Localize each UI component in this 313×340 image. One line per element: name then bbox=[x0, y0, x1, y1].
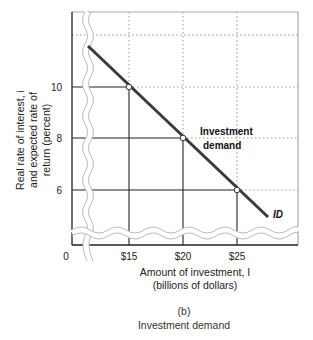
investment-demand-label-line2: demand bbox=[203, 140, 241, 151]
x-tick-20: $20 bbox=[175, 251, 192, 262]
y-tick-8: 8 bbox=[56, 133, 62, 144]
y-tick-6: 6 bbox=[56, 185, 62, 196]
data-point-15-10 bbox=[126, 84, 132, 90]
x-axis-break-icon bbox=[72, 226, 298, 239]
svg-text:return (percent): return (percent) bbox=[40, 104, 52, 176]
y-tick-10: 10 bbox=[51, 82, 63, 93]
x-axis-title-line2: (billions of dollars) bbox=[100, 279, 290, 292]
y-axis-title: Real rate of interest, i and expected ra… bbox=[14, 90, 52, 190]
figure-caption: Investment demand bbox=[0, 319, 313, 331]
x-tick-0: 0 bbox=[63, 251, 69, 262]
x-axis-title: Amount of investment, I (billions of dol… bbox=[100, 266, 290, 292]
svg-text:Real rate of interest, i: Real rate of interest, i bbox=[14, 90, 26, 190]
id-curve-label: ID bbox=[273, 209, 283, 220]
x-axis-title-line1: Amount of investment, I bbox=[100, 266, 290, 279]
dotted-gridlines bbox=[72, 12, 298, 190]
data-point-25-6 bbox=[234, 187, 240, 193]
x-tick-15: $15 bbox=[121, 251, 138, 262]
data-point-20-8 bbox=[180, 135, 186, 141]
x-tick-25: $25 bbox=[229, 251, 246, 262]
svg-text:and expected rate of: and expected rate of bbox=[27, 92, 39, 188]
investment-demand-label: Investment bbox=[200, 126, 253, 137]
panel-label: (b) bbox=[0, 305, 313, 317]
